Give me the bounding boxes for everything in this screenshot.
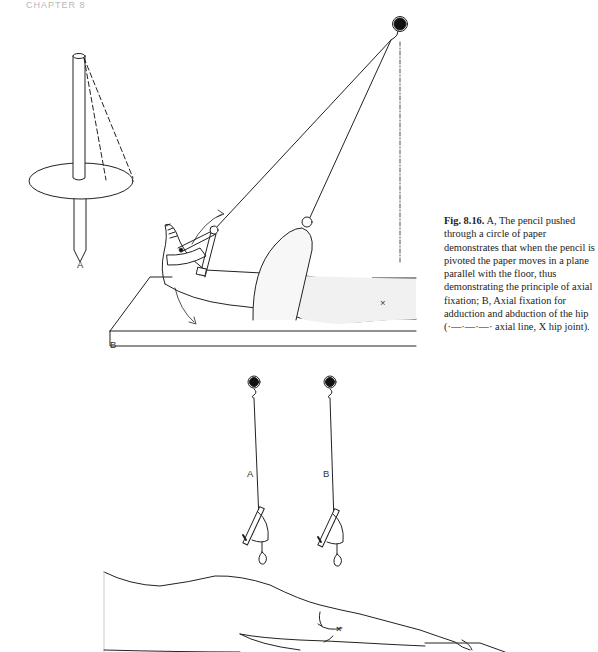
sling-a	[243, 507, 268, 565]
hip-joint-mark: ×	[380, 297, 386, 308]
figure-caption: Fig. 8.16. A, The pencil pushed through …	[444, 214, 596, 334]
ceiling-anchor-icon	[391, 17, 408, 41]
lower-leg-drawing	[104, 572, 505, 652]
anchor-b-icon	[324, 376, 336, 398]
cord-b-label: B	[323, 468, 329, 479]
lower-joint-mark: ×	[336, 623, 342, 634]
caption-text: A, The pencil pushed through a circle of…	[444, 215, 595, 332]
panel-b-label: B	[110, 339, 116, 350]
cord-a-label: A	[247, 468, 254, 479]
figure-number: Fig. 8.16.	[444, 215, 484, 226]
ankle-cuff	[167, 226, 218, 277]
anchor-a-icon	[248, 376, 260, 398]
sling-b	[318, 509, 343, 567]
panel-a-label: A	[77, 259, 84, 270]
pencil-diagram	[29, 54, 133, 263]
